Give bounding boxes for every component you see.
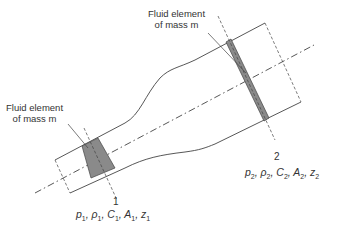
subscript: 2 (300, 173, 304, 180)
subscript: 1 (115, 215, 119, 222)
section-2-number: 2 (274, 151, 280, 162)
section-1-variables: p1, ρ1, C1, A1, z1 (76, 209, 150, 224)
subscript: 2 (267, 173, 271, 180)
subscript: 2 (284, 173, 288, 180)
outlet-end-dashed (265, 23, 301, 102)
fluid-element-1 (82, 138, 115, 178)
var-c: C (107, 208, 115, 220)
leader-line-right (208, 33, 246, 73)
subscript: 2 (315, 173, 319, 180)
label-line: Fluid element (148, 8, 205, 19)
label-line: Fluid element (6, 102, 63, 113)
fluid-element-label-left: Fluid element of mass m (6, 102, 63, 124)
subscript: 1 (146, 215, 150, 222)
fluid-element-label-right: Fluid element of mass m (148, 8, 205, 30)
subscript: 1 (131, 215, 135, 222)
subscript: 1 (82, 215, 86, 222)
section-1-number: 1 (113, 196, 119, 207)
var-c: C (276, 166, 284, 178)
inlet-end-dashed (55, 160, 70, 193)
label-line: of mass m (148, 19, 205, 30)
section-2-variables: p2, ρ2, C2, A2, z2 (245, 167, 319, 182)
subscript: 1 (98, 215, 102, 222)
label-line: of mass m (6, 113, 63, 124)
subscript: 2 (251, 173, 255, 180)
leader-line-left (68, 124, 88, 148)
